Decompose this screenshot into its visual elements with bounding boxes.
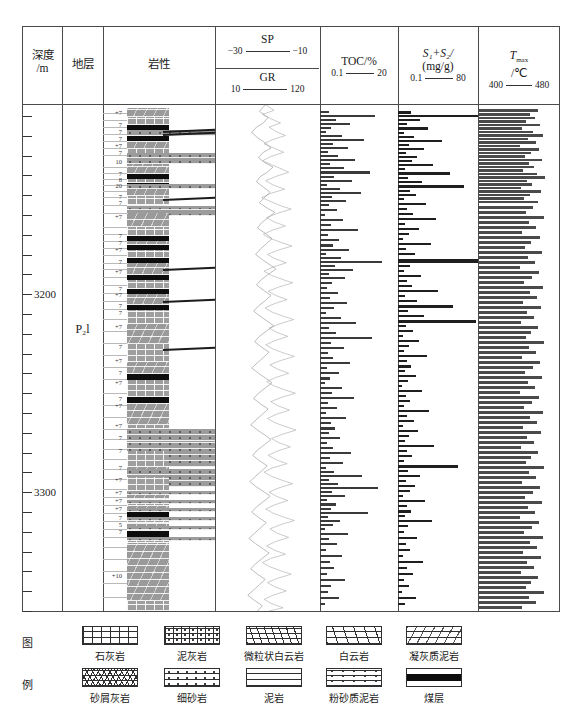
log-bar: [398, 198, 404, 200]
log-bar: [478, 446, 521, 449]
log-bar: [320, 520, 340, 522]
log-bar: [320, 524, 333, 526]
log-bar: [398, 573, 413, 575]
log-bar: [478, 416, 530, 419]
log-bar: [478, 556, 541, 559]
log-bar: [320, 427, 335, 430]
log-bar: [320, 287, 327, 289]
lithology-number: +7: [104, 423, 122, 430]
log-bar: [398, 310, 408, 312]
log-bar: [478, 451, 538, 454]
log-bar: [478, 306, 541, 309]
log-bar: [478, 197, 524, 200]
tmax-bar-track: [478, 27, 560, 611]
lithology-number: +7: [104, 477, 122, 484]
log-bar: [478, 386, 535, 389]
legend-caption: 煤层: [374, 690, 494, 705]
log-bar: [478, 180, 527, 182]
log-bar: [478, 271, 539, 274]
log-bar: [398, 385, 402, 387]
lithology-number: 7: [104, 370, 122, 377]
lithology-rule: [103, 367, 127, 368]
log-bar: [320, 135, 342, 137]
lithology-number: 7: [104, 259, 122, 266]
log-bar: [478, 471, 529, 474]
log-bar: [320, 261, 382, 263]
depth-tick: [23, 552, 32, 553]
lithology-unit: [127, 362, 169, 374]
depth-tick: [23, 453, 32, 454]
log-bar: [478, 131, 533, 133]
lithology-number: 7: [104, 465, 122, 472]
log-bar: [398, 144, 409, 146]
lithology-streak: [163, 262, 215, 270]
lithology-number: 7: [104, 200, 122, 207]
log-bar: [320, 249, 349, 251]
lithology-rule: [103, 167, 127, 168]
log-bar: [398, 325, 406, 327]
lithology-number: +7: [104, 403, 122, 410]
log-bar: [398, 350, 404, 352]
log-bar: [320, 533, 348, 535]
log-bar: [320, 163, 330, 165]
log-bar: [398, 208, 407, 210]
lithology-rule: [103, 393, 127, 394]
log-bar: [478, 117, 535, 119]
log-bar: [320, 176, 334, 178]
lithology-number: +7: [104, 498, 122, 505]
depth-tick: [23, 532, 32, 533]
log-bar: [398, 450, 407, 452]
lithology-unit: [127, 141, 169, 149]
log-bar: [398, 360, 407, 362]
lithology-rule: [103, 120, 127, 121]
log-bar: [320, 273, 329, 275]
lithology-unit: [127, 188, 169, 196]
log-bar: [398, 440, 405, 442]
log-bar: [478, 127, 522, 130]
log-bar: [320, 372, 339, 374]
lithology-rule: [103, 459, 127, 460]
log-bar: [320, 151, 328, 153]
log-bar: [398, 194, 416, 196]
log-bar: [398, 140, 442, 142]
log-bar: [398, 400, 410, 402]
log-bar: [478, 176, 545, 179]
log-bar: [320, 561, 330, 563]
log-bar: [320, 297, 330, 299]
log-bar: [320, 317, 341, 319]
log-bar: [398, 425, 403, 427]
log-bar: [398, 300, 417, 302]
lithology-number: 7: [104, 150, 122, 157]
log-bar: [478, 141, 536, 144]
log-bar: [398, 579, 404, 581]
log-bar: [478, 351, 536, 354]
log-bar: [478, 561, 527, 564]
depth-tick: [23, 274, 32, 275]
log-bar: [320, 367, 327, 369]
log-bar: [320, 528, 325, 530]
log-bar: [478, 124, 540, 126]
log-bar: [320, 155, 338, 157]
log-bar: [320, 111, 329, 113]
lithology-unit: [127, 380, 169, 397]
log-bar: [398, 168, 405, 170]
log-bar: [478, 286, 543, 289]
lithology-unit: [127, 280, 169, 289]
lithology-number: +7: [104, 324, 122, 331]
log-bar: [478, 194, 530, 196]
log-bar: [320, 417, 346, 419]
log-bar: [398, 405, 404, 407]
lithology-streak: [163, 191, 215, 201]
log-bar: [320, 292, 338, 294]
log-bar: [398, 265, 410, 267]
log-bar: [478, 120, 526, 123]
log-bar: [398, 531, 404, 533]
log-bar: [478, 396, 539, 399]
log-bar: [320, 579, 345, 581]
legend-swatch: [164, 668, 220, 687]
log-bar: [478, 476, 536, 479]
log-bar: [320, 143, 333, 145]
log-bar: [478, 601, 536, 604]
log-bar: [320, 209, 337, 211]
log-bar: [320, 159, 355, 161]
